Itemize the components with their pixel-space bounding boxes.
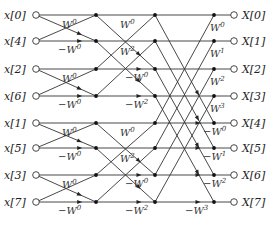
twiddle-label: W1: [210, 47, 225, 59]
butterfly-node: [94, 13, 98, 17]
twiddle-label: W0: [120, 126, 135, 138]
butterfly-node: [94, 39, 98, 43]
input-node: [33, 199, 40, 206]
output-node: [231, 12, 238, 19]
butterfly-node: [212, 13, 216, 17]
butterfly-node: [94, 146, 98, 150]
input-label: x[3]: [4, 169, 26, 182]
butterfly-node: [212, 39, 216, 43]
twiddle-label: W2: [210, 75, 225, 87]
output-node: [231, 145, 238, 152]
arrowhead-icon: [77, 86, 82, 90]
butterfly-node: [94, 173, 98, 177]
butterfly-node: [153, 173, 157, 177]
twiddle-label: W2: [120, 45, 135, 57]
twiddle-label-negative: −W0: [58, 98, 82, 110]
twiddle-label-negative: −W0: [58, 43, 82, 55]
output-label: X[2]: [241, 63, 266, 76]
butterfly-node: [94, 121, 98, 125]
twiddle-label: W0: [120, 18, 135, 30]
twiddle-label-negative: −W0: [58, 150, 82, 162]
twiddle-label: W0: [62, 126, 77, 138]
butterfly-node: [94, 200, 98, 204]
output-node: [231, 172, 238, 179]
input-label: x[4]: [4, 35, 26, 48]
arrowhead-icon: [77, 31, 82, 35]
twiddle-label-negative: −W1: [203, 150, 226, 162]
output-node: [231, 38, 238, 45]
output-label: X[7]: [241, 196, 266, 209]
output-node: [231, 199, 238, 206]
twiddle-label-negative: −W0: [58, 204, 82, 216]
twiddle-label: W0: [62, 178, 77, 190]
twiddle-label-negative: −W2: [203, 177, 227, 189]
output-node: [231, 120, 238, 127]
twiddle-label-negative: −W2: [125, 98, 149, 110]
fft-butterfly-diagram: W0W0W0W0−W0−W0−W0−W0W0W2W0W2−W0−W2−W0−W2…: [0, 0, 268, 227]
butterfly-node: [153, 13, 157, 17]
input-node: [33, 38, 40, 45]
output-label: X[6]: [241, 169, 266, 182]
butterfly-node: [212, 146, 216, 150]
butterfly-node: [153, 39, 157, 43]
input-node: [33, 66, 40, 73]
output-node: [231, 93, 238, 100]
butterfly-node: [212, 67, 216, 71]
twiddle-label: W3: [210, 102, 225, 114]
butterfly-node: [212, 94, 216, 98]
output-label: X[5]: [241, 142, 266, 155]
input-node: [33, 93, 40, 100]
output-label: X[3]: [241, 90, 266, 103]
twiddle-label-negative: −W0: [203, 125, 227, 137]
butterfly-node: [153, 146, 157, 150]
twiddle-label-negative: −W0: [125, 177, 149, 189]
arrowhead-icon: [195, 200, 200, 204]
output-label: X[1]: [241, 35, 266, 48]
output-label: X[4]: [241, 117, 266, 130]
butterfly-node: [212, 173, 216, 177]
arrowhead-icon: [136, 94, 141, 98]
twiddle-label-negative: −W3: [185, 204, 209, 216]
twiddle-label: W2: [120, 152, 135, 164]
butterfly-node: [212, 121, 216, 125]
output-node: [231, 66, 238, 73]
input-label: x[0]: [4, 9, 26, 22]
input-node: [33, 172, 40, 179]
butterfly-node: [94, 67, 98, 71]
twiddle-label-negative: −W2: [125, 204, 149, 216]
input-label: x[2]: [4, 63, 26, 76]
input-node: [33, 145, 40, 152]
arrowhead-icon: [195, 115, 199, 120]
butterfly-node: [212, 200, 216, 204]
twiddle-label: W0: [62, 18, 77, 30]
arrowhead-icon: [136, 200, 141, 204]
twiddle-label: W0: [210, 21, 225, 33]
arrowhead-icon: [195, 90, 199, 95]
input-label: x[6]: [4, 90, 26, 103]
input-node: [33, 120, 40, 127]
arrowhead-icon: [77, 138, 82, 142]
arrowhead-icon: [136, 67, 141, 71]
twiddle-label-negative: −W0: [125, 71, 149, 83]
butterfly-node: [153, 121, 157, 125]
input-label: x[1]: [4, 117, 26, 130]
butterfly-node: [153, 200, 157, 204]
arrowhead-icon: [136, 173, 141, 177]
labels-layer: W0W0W0W0−W0−W0−W0−W0W0W2W0W2−W0−W2−W0−W2…: [4, 9, 266, 216]
input-label: x[7]: [4, 196, 26, 209]
butterfly-node: [153, 67, 157, 71]
input-node: [33, 12, 40, 19]
output-label: X[0]: [241, 9, 266, 22]
butterfly-node: [153, 94, 157, 98]
butterfly-node: [94, 94, 98, 98]
twiddle-label: W0: [62, 72, 77, 84]
input-label: x[5]: [4, 142, 26, 155]
arrowhead-icon: [77, 192, 82, 196]
